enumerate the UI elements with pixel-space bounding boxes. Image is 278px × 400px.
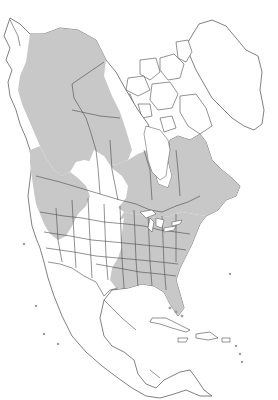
- range-map: [0, 0, 278, 400]
